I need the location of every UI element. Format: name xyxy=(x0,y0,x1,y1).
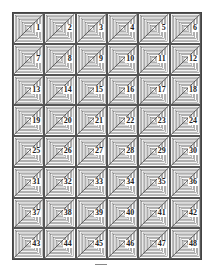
tile: 48 xyxy=(170,228,201,259)
tile: 20 xyxy=(44,105,75,136)
tile-number: 11 xyxy=(157,55,167,63)
tile: 6 xyxy=(170,13,201,44)
tile-number: 12 xyxy=(188,55,198,63)
tile: 12 xyxy=(170,44,201,75)
tile: 33 xyxy=(76,167,107,198)
tile-number: 16 xyxy=(125,86,135,94)
tile-number: 23 xyxy=(157,117,167,125)
tile: 46 xyxy=(107,228,138,259)
tile: 45 xyxy=(76,228,107,259)
tile: 10 xyxy=(107,44,138,75)
tile: 18 xyxy=(170,75,201,106)
tile-number: 37 xyxy=(31,209,41,217)
tile-number: 43 xyxy=(31,240,41,248)
tile: 9 xyxy=(76,44,107,75)
tile-number: 26 xyxy=(63,147,73,155)
tile-number: 15 xyxy=(94,86,104,94)
tile-grid: 1234567891011121314151617181920212223242… xyxy=(12,12,202,260)
tile-number: 45 xyxy=(94,240,104,248)
tile-number: 31 xyxy=(31,178,41,186)
tile: 44 xyxy=(44,228,75,259)
tile: 43 xyxy=(13,228,44,259)
tile-number: 2 xyxy=(67,24,73,32)
tile: 19 xyxy=(13,105,44,136)
tile-number: 33 xyxy=(94,178,104,186)
tile-number: 20 xyxy=(63,117,73,125)
tile-number: 25 xyxy=(31,147,41,155)
tile-number: 40 xyxy=(125,209,135,217)
tile-number: 19 xyxy=(31,117,41,125)
tile-number: 10 xyxy=(125,55,135,63)
tile: 40 xyxy=(107,198,138,229)
tile-number: 29 xyxy=(157,147,167,155)
tile: 14 xyxy=(44,75,75,106)
tile: 8 xyxy=(44,44,75,75)
tile: 37 xyxy=(13,198,44,229)
tile: 5 xyxy=(138,13,169,44)
tile: 38 xyxy=(44,198,75,229)
tile-number: 36 xyxy=(188,178,198,186)
tile: 15 xyxy=(76,75,107,106)
tile: 35 xyxy=(138,167,169,198)
tile-number: 44 xyxy=(63,240,73,248)
tile: 22 xyxy=(107,105,138,136)
tile-number: 47 xyxy=(157,240,167,248)
tile: 25 xyxy=(13,136,44,167)
tile-number: 39 xyxy=(94,209,104,217)
tile: 2 xyxy=(44,13,75,44)
tile: 4 xyxy=(107,13,138,44)
tile-number: 34 xyxy=(125,178,135,186)
tile: 47 xyxy=(138,228,169,259)
tile-number: 32 xyxy=(63,178,73,186)
tile-number: 46 xyxy=(125,240,135,248)
tile-number: 14 xyxy=(63,86,73,94)
tile: 42 xyxy=(170,198,201,229)
tile: 27 xyxy=(76,136,107,167)
tile-number: 48 xyxy=(188,240,198,248)
tile: 13 xyxy=(13,75,44,106)
tile-number: 4 xyxy=(129,24,135,32)
tile: 23 xyxy=(138,105,169,136)
tile-number: 38 xyxy=(63,209,73,217)
tile-number: 30 xyxy=(188,147,198,155)
tile: 41 xyxy=(138,198,169,229)
tile: 32 xyxy=(44,167,75,198)
tile-number: 7 xyxy=(35,55,41,63)
tile-number: 8 xyxy=(67,55,73,63)
tile: 21 xyxy=(76,105,107,136)
tile: 24 xyxy=(170,105,201,136)
tile: 3 xyxy=(76,13,107,44)
tile-number: 17 xyxy=(157,86,167,94)
tile: 11 xyxy=(138,44,169,75)
tile: 17 xyxy=(138,75,169,106)
tile: 7 xyxy=(13,44,44,75)
tile-number: 3 xyxy=(98,24,104,32)
tile-number: 1 xyxy=(35,24,41,32)
tile-number: 5 xyxy=(161,24,167,32)
tile-number: 6 xyxy=(192,24,198,32)
footer-mark xyxy=(95,264,107,270)
tile-number: 35 xyxy=(157,178,167,186)
tile-number: 42 xyxy=(188,209,198,217)
tile-number: 21 xyxy=(94,117,104,125)
tile-number: 28 xyxy=(125,147,135,155)
tile-number: 41 xyxy=(157,209,167,217)
tile: 30 xyxy=(170,136,201,167)
tile: 29 xyxy=(138,136,169,167)
tile-number: 13 xyxy=(31,86,41,94)
tile: 1 xyxy=(13,13,44,44)
tile: 26 xyxy=(44,136,75,167)
tile: 36 xyxy=(170,167,201,198)
tile-number: 9 xyxy=(98,55,104,63)
tile: 16 xyxy=(107,75,138,106)
tile-number: 18 xyxy=(188,86,198,94)
tile: 28 xyxy=(107,136,138,167)
tile-number: 27 xyxy=(94,147,104,155)
tile: 39 xyxy=(76,198,107,229)
tile: 34 xyxy=(107,167,138,198)
tile-number: 24 xyxy=(188,117,198,125)
tile-number: 22 xyxy=(125,117,135,125)
tile: 31 xyxy=(13,167,44,198)
